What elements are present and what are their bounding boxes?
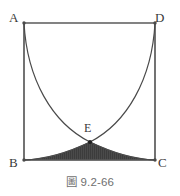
vertex-dot-A	[22, 21, 25, 24]
vertex-label-b: B	[9, 156, 18, 169]
vertex-label-d: D	[155, 11, 164, 24]
figure-canvas	[0, 0, 180, 196]
vertex-label-a: A	[9, 11, 18, 24]
vertex-dot-C	[153, 158, 156, 161]
figure-caption: 圖 9.2-66	[0, 173, 180, 189]
vertex-dot-E	[88, 140, 92, 144]
arc-from-A-to-C	[24, 23, 155, 160]
vertex-label-c: C	[158, 156, 167, 169]
vertex-label-e: E	[84, 122, 91, 135]
vertex-dot-B	[22, 158, 25, 161]
geometry-figure: A D B C E 圖 9.2-66	[0, 0, 180, 196]
arc-from-D-to-B	[24, 23, 155, 160]
